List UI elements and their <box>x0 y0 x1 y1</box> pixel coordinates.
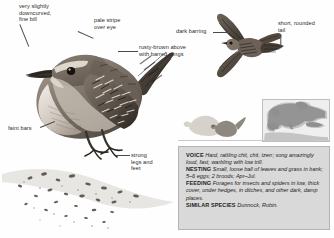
nesting-entry: NESTING Small, loose ball of leaves and … <box>186 166 323 180</box>
leader-tail <box>281 36 282 48</box>
callout-faint-bars: faint bars <box>8 125 44 132</box>
voice-text: Hard, rattling chit, chit, tzerr; song a… <box>186 152 314 165</box>
field-guide-page: VOICE Hard, rattling chit, chit, tzerr; … <box>0 0 334 238</box>
similar-species-entry: SIMILAR SPECIES Dunnock, Robin. <box>186 202 323 209</box>
panel-divider <box>178 140 330 141</box>
leader-barring <box>213 32 231 33</box>
callout-upperparts: rusty-brown above with barred wings <box>139 44 201 57</box>
nesting-heading: NESTING <box>186 166 211 172</box>
similar-species-heading: SIMILAR SPECIES <box>186 202 236 208</box>
callout-stripe: pale stripe over eye <box>94 17 142 30</box>
leader-legs-feet <box>116 155 130 156</box>
europe-distribution-map <box>262 99 330 142</box>
leader-upperparts <box>118 51 138 52</box>
feeding-heading: FEEDING <box>186 180 211 186</box>
voice-entry: VOICE Hard, rattling chit, chit, tzerr; … <box>186 152 323 166</box>
species-info-panel: VOICE Hard, rattling chit, chit, tzerr; … <box>178 146 330 230</box>
voice-heading: VOICE <box>186 152 204 158</box>
feeding-entry: FEEDING Forages for insects and spiders … <box>186 180 323 201</box>
similar-species-text: Dunnock, Robin. <box>237 202 278 208</box>
callout-legs-feet: strong legs and feet <box>131 152 163 172</box>
callout-tail: short, rounded tail <box>278 20 330 33</box>
size-comparison-silhouettes <box>183 110 247 140</box>
callout-bill: very slightly downcurved, fine bill <box>19 3 75 23</box>
